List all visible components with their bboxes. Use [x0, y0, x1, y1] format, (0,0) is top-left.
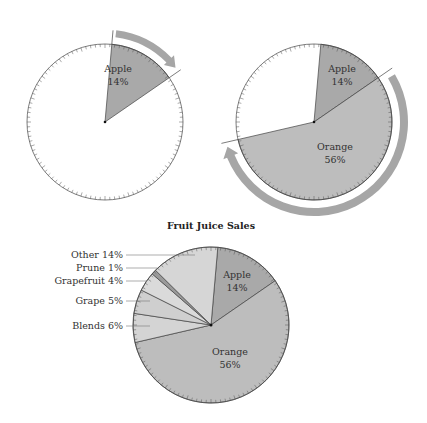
- callout-other: Other 14%: [71, 249, 123, 260]
- apple-value: 14%: [107, 76, 128, 87]
- callout-grape: Grape 5%: [75, 295, 123, 306]
- apple-label: Apple: [103, 63, 132, 74]
- orange-slice: [238, 78, 392, 200]
- orange-label: Orange: [317, 141, 353, 152]
- fruit-juice-pie-figure: Apple 14% Apple 14% Orange 56% Fruit Jui…: [0, 0, 427, 423]
- callout-blends: Blends 6%: [72, 320, 123, 331]
- callout-grapefruit: Grapefruit 4%: [54, 275, 123, 286]
- apple-label: Apple: [222, 269, 251, 280]
- apple-label: Apple: [327, 63, 356, 74]
- apple-value: 14%: [226, 282, 247, 293]
- orange-value: 56%: [324, 154, 345, 165]
- pie-step-2: Apple 14% Orange 56%: [221, 44, 408, 216]
- apple-value: 14%: [331, 76, 352, 87]
- callout-prune: Prune 1%: [76, 262, 123, 273]
- pie-step-1: Apple 14%: [27, 30, 183, 200]
- chart-title: Fruit Juice Sales: [167, 220, 255, 231]
- orange-label: Orange: [212, 346, 248, 357]
- pie-final: Fruit Juice Sales Apple 14% Orange 56% O…: [54, 220, 289, 403]
- orange-value: 56%: [219, 359, 240, 370]
